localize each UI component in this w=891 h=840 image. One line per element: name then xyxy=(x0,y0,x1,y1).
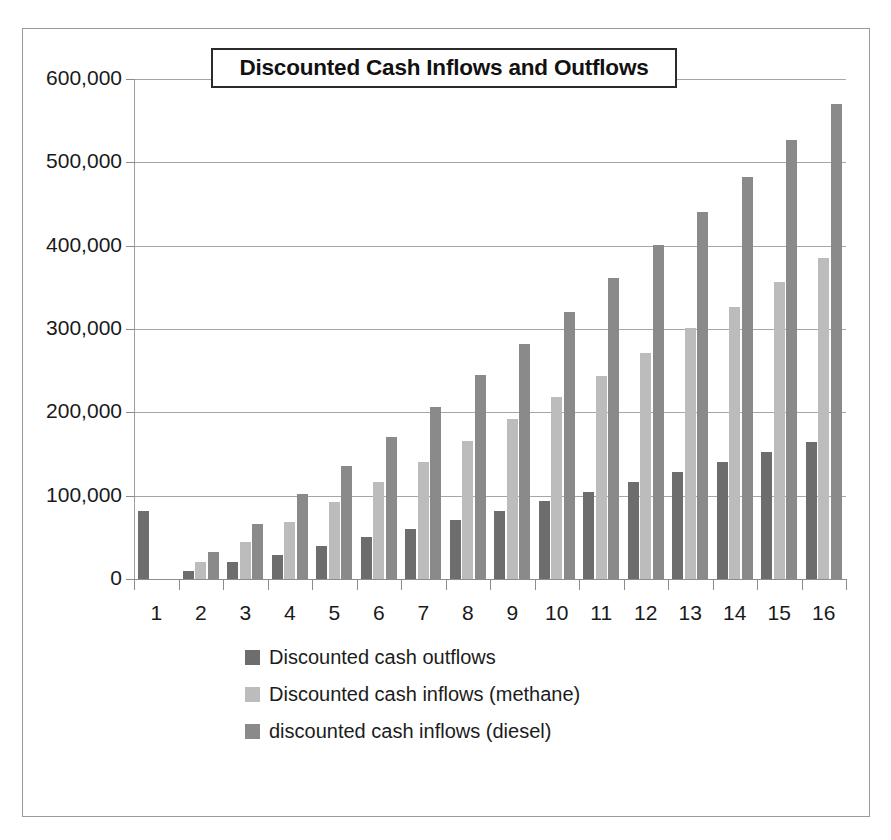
bar[interactable] xyxy=(583,492,594,580)
bar-group xyxy=(757,79,802,579)
x-tick-mark xyxy=(268,580,269,590)
bar[interactable] xyxy=(373,482,384,579)
bar-group xyxy=(312,79,357,579)
y-tick-mark xyxy=(126,329,135,330)
bar-group xyxy=(713,79,758,579)
bar[interactable] xyxy=(672,472,683,579)
bar[interactable] xyxy=(138,511,149,579)
bar-group xyxy=(490,79,535,579)
bar[interactable] xyxy=(272,555,283,579)
x-tick-label: 7 xyxy=(398,601,448,625)
bar-group xyxy=(446,79,491,579)
y-tick-mark xyxy=(126,246,135,247)
bar[interactable] xyxy=(831,104,842,579)
bar[interactable] xyxy=(430,407,441,580)
bar[interactable] xyxy=(297,494,308,579)
legend-swatch-diesel xyxy=(245,724,260,739)
bar[interactable] xyxy=(284,522,295,579)
bar[interactable] xyxy=(386,437,397,580)
x-tick-label: 16 xyxy=(799,601,849,625)
bar-group xyxy=(134,79,179,579)
bar[interactable] xyxy=(450,520,461,579)
bar[interactable] xyxy=(240,542,251,580)
y-tick-label: 600,000 xyxy=(26,66,122,90)
x-tick-mark xyxy=(846,580,847,590)
bar[interactable] xyxy=(697,212,708,580)
chart-title: Discounted Cash Inflows and Outflows xyxy=(211,48,677,88)
x-tick-mark xyxy=(535,580,536,590)
x-tick-label: 2 xyxy=(176,601,226,625)
x-tick-label: 14 xyxy=(710,601,760,625)
bar[interactable] xyxy=(774,282,785,580)
bar-group xyxy=(268,79,313,579)
x-tick-mark xyxy=(401,580,402,590)
bar[interactable] xyxy=(685,328,696,579)
x-tick-label: 4 xyxy=(265,601,315,625)
x-tick-mark xyxy=(179,580,180,590)
x-tick-label: 11 xyxy=(576,601,626,625)
bar[interactable] xyxy=(183,571,194,579)
x-tick-label: 8 xyxy=(443,601,493,625)
bar[interactable] xyxy=(628,482,639,579)
bar[interactable] xyxy=(653,245,664,579)
bar[interactable] xyxy=(608,278,619,579)
x-tick-label: 1 xyxy=(131,601,181,625)
bar[interactable] xyxy=(818,258,829,579)
x-tick-label: 12 xyxy=(621,601,671,625)
bar-group xyxy=(802,79,847,579)
bar[interactable] xyxy=(208,552,219,579)
bar[interactable] xyxy=(742,177,753,580)
bar[interactable] xyxy=(418,462,429,580)
bar[interactable] xyxy=(786,140,797,579)
legend-item[interactable]: discounted cash inflows (diesel) xyxy=(245,713,665,750)
legend-item[interactable]: Discounted cash inflows (methane) xyxy=(245,676,665,713)
chart-figure-frame: Discounted Cash Inflows and Outflows 600… xyxy=(22,28,870,817)
bar-group xyxy=(579,79,624,579)
chart-legend: Discounted cash outflowsDiscounted cash … xyxy=(245,639,665,750)
bar[interactable] xyxy=(341,466,352,579)
bar[interactable] xyxy=(329,502,340,580)
bar[interactable] xyxy=(519,344,530,579)
y-tick-mark xyxy=(126,412,135,413)
bar[interactable] xyxy=(252,524,263,579)
y-tick-mark xyxy=(126,496,135,497)
bar[interactable] xyxy=(507,419,518,579)
x-tick-mark xyxy=(357,580,358,590)
bar-group xyxy=(535,79,580,579)
bar[interactable] xyxy=(806,442,817,580)
bar[interactable] xyxy=(640,353,651,579)
bar[interactable] xyxy=(405,529,416,579)
bar[interactable] xyxy=(551,397,562,579)
y-tick-label: 500,000 xyxy=(26,149,122,173)
x-tick-label: 9 xyxy=(487,601,537,625)
bar[interactable] xyxy=(717,462,728,579)
bar[interactable] xyxy=(462,441,473,579)
bar[interactable] xyxy=(227,562,238,579)
bar[interactable] xyxy=(195,562,206,579)
bar[interactable] xyxy=(475,375,486,579)
bar[interactable] xyxy=(596,376,607,579)
x-tick-mark xyxy=(757,580,758,590)
legend-item[interactable]: Discounted cash outflows xyxy=(245,639,665,676)
bar[interactable] xyxy=(494,511,505,579)
bar[interactable] xyxy=(564,312,575,580)
y-tick-label: 100,000 xyxy=(26,483,122,507)
x-tick-mark xyxy=(134,580,135,590)
y-tick-label: 200,000 xyxy=(26,399,122,423)
x-tick-label: 5 xyxy=(309,601,359,625)
bar[interactable] xyxy=(761,452,772,579)
bar[interactable] xyxy=(361,537,372,579)
plot-area xyxy=(134,79,846,579)
y-tick-label: 0 xyxy=(26,566,122,590)
legend-swatch-methane xyxy=(245,687,260,702)
x-tick-label: 15 xyxy=(754,601,804,625)
bar[interactable] xyxy=(316,546,327,579)
bar-group xyxy=(357,79,402,579)
y-tick-label: 400,000 xyxy=(26,233,122,257)
x-tick-mark xyxy=(223,580,224,590)
y-tick-mark xyxy=(126,79,135,80)
bar-group xyxy=(179,79,224,579)
bar[interactable] xyxy=(539,501,550,579)
legend-swatch-outflows xyxy=(245,650,260,665)
bar[interactable] xyxy=(729,307,740,580)
